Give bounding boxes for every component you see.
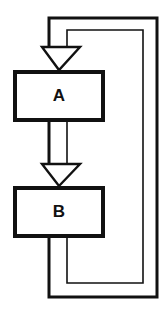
entry-arrowhead-icon bbox=[42, 47, 80, 70]
node-b-label: B bbox=[53, 202, 65, 221]
flowchart-diagram: A B bbox=[0, 0, 166, 315]
inner-feedback-loop bbox=[67, 30, 143, 283]
flowchart-canvas: A B bbox=[0, 0, 166, 315]
node-a-label: A bbox=[53, 86, 65, 105]
a-to-b-arrowhead-icon bbox=[42, 164, 80, 186]
